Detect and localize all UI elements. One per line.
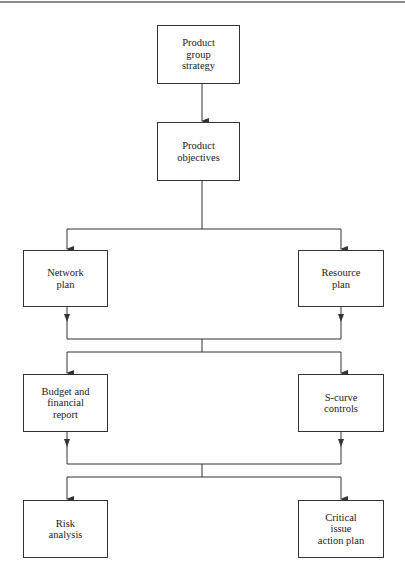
node-label: Network plan xyxy=(44,267,87,290)
node-network-plan: Network plan xyxy=(23,250,108,307)
node-label: Risk analysis xyxy=(46,518,86,541)
node-resource-plan: Resource plan xyxy=(298,250,384,307)
node-label: Critical issue action plan xyxy=(315,512,367,547)
node-risk-analysis: Risk analysis xyxy=(23,500,108,558)
node-label: Product group strategy xyxy=(179,37,218,72)
node-label: Budget and financial report xyxy=(38,386,92,421)
node-label: Product objectives xyxy=(174,140,223,163)
node-s-curve-controls: S-curve controls xyxy=(298,374,384,432)
node-label: Resource plan xyxy=(318,267,363,290)
node-label: S-curve controls xyxy=(321,392,361,415)
node-budget-financial-report: Budget and financial report xyxy=(23,374,108,432)
node-product-objectives: Product objectives xyxy=(157,122,240,181)
node-product-group-strategy: Product group strategy xyxy=(157,25,240,84)
node-critical-issue-action-plan: Critical issue action plan xyxy=(298,500,384,558)
flowchart-canvas: Product group strategy Product objective… xyxy=(0,0,405,575)
